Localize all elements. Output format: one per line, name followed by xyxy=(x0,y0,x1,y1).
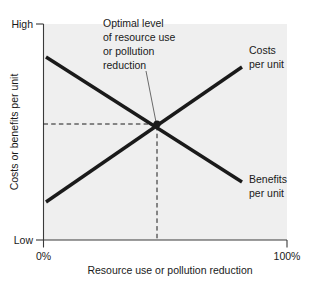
y-axis-title: Costs or benefits per unit xyxy=(8,74,20,191)
annotation-line-1: Optimal level xyxy=(103,17,164,29)
optimal-point-marker xyxy=(153,120,160,127)
y-axis-low-label: Low xyxy=(14,234,34,246)
costs-benefits-line-chart: High Low 0% 100% Costs or benefits per u… xyxy=(0,0,330,281)
x-axis-max-label: 100% xyxy=(274,250,301,262)
annotation-line-4: reduction xyxy=(103,59,146,71)
x-axis-zero-label: 0% xyxy=(36,250,51,262)
chart-figure: High Low 0% 100% Costs or benefits per u… xyxy=(0,0,330,281)
x-axis-title: Resource use or pollution reduction xyxy=(87,264,252,276)
series-label-benefits-line2: per unit xyxy=(249,187,284,199)
series-label-costs-line1: Costs xyxy=(249,44,276,56)
series-label-benefits-line1: Benefits xyxy=(249,173,287,185)
y-axis-high-label: High xyxy=(11,18,33,30)
series-label-costs-line2: per unit xyxy=(249,58,284,70)
annotation-line-3: or pollution xyxy=(103,45,155,57)
annotation-line-2: of resource use xyxy=(103,31,176,43)
